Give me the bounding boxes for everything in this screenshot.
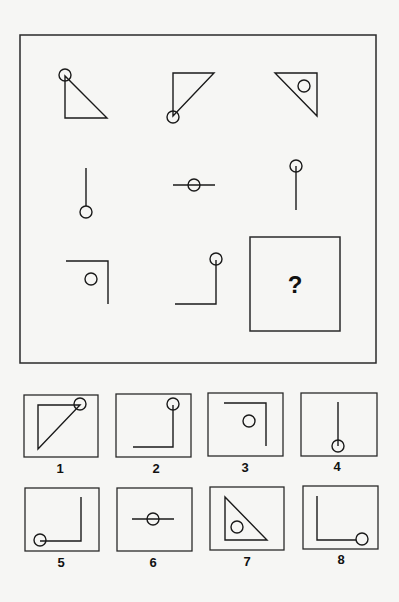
circle-shape xyxy=(231,521,243,533)
triangle-shape xyxy=(275,73,317,116)
matrix-cell-corner-circle-end xyxy=(175,253,222,304)
option-label: 8 xyxy=(337,552,344,567)
option-label: 3 xyxy=(241,460,248,475)
corner-shape xyxy=(40,497,81,541)
option-label: 2 xyxy=(152,461,159,476)
option-7[interactable]: 7 xyxy=(210,487,284,569)
circle-shape xyxy=(80,206,92,218)
triangle-shape xyxy=(225,497,267,540)
matrix-cell-line-circle-top xyxy=(290,160,302,210)
matrix-cell-corner-circle-inside xyxy=(66,261,108,304)
option-box[interactable] xyxy=(301,393,377,456)
matrix-cell-line-circle-bottom xyxy=(80,168,92,218)
option-label: 6 xyxy=(149,555,156,570)
matrix-cell-triangle-circle-inside xyxy=(275,73,317,116)
matrix-cell-triangle-circle-top-vertex xyxy=(59,69,107,118)
option-label: 7 xyxy=(243,554,250,569)
matrix-cell-line-circle-middle xyxy=(173,179,215,191)
circle-shape xyxy=(34,534,46,546)
option-label: 4 xyxy=(333,459,341,474)
corner-shape xyxy=(317,496,356,540)
option-2[interactable]: 2 xyxy=(116,394,191,476)
circle-shape xyxy=(356,533,368,545)
circle-shape xyxy=(243,415,255,427)
circle-shape xyxy=(85,273,97,285)
matrix-cell-triangle-circle-bottom-vertex xyxy=(167,73,214,123)
option-8[interactable]: 8 xyxy=(303,486,378,567)
missing-answer-cell: ? xyxy=(250,237,340,331)
option-5[interactable]: 5 xyxy=(25,488,99,570)
option-label: 5 xyxy=(57,555,64,570)
triangle-shape xyxy=(173,73,214,116)
circle-shape xyxy=(74,398,86,410)
corner-shape xyxy=(133,405,173,447)
puzzle-canvas: ? 12345678 xyxy=(0,0,399,602)
puzzle-matrix: ? xyxy=(20,35,376,363)
option-1[interactable]: 1 xyxy=(24,395,98,476)
triangle-shape xyxy=(38,405,80,449)
option-label: 1 xyxy=(56,461,63,476)
circle-shape xyxy=(298,80,310,92)
option-6[interactable]: 6 xyxy=(117,488,192,570)
triangle-shape xyxy=(65,76,107,118)
option-4[interactable]: 4 xyxy=(301,393,377,474)
question-mark: ? xyxy=(288,271,303,298)
puzzle-page: ? 12345678 xyxy=(0,0,399,602)
answer-options: 12345678 xyxy=(24,393,378,570)
corner-shape xyxy=(175,260,216,304)
option-3[interactable]: 3 xyxy=(208,393,283,475)
